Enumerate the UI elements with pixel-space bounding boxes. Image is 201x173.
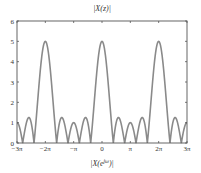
- x-tick-label: −2π: [40, 145, 51, 153]
- y-tick-label: 4: [11, 58, 15, 66]
- y-tick-label: 3: [11, 79, 15, 87]
- chart-title: |X(z)|: [93, 4, 111, 13]
- y-tick-label: 0: [11, 140, 15, 148]
- x-tick-label: −π: [70, 145, 78, 153]
- y-tick-label: 5: [11, 38, 15, 46]
- x-tick-label: π: [129, 145, 133, 153]
- y-tick-label: 2: [11, 99, 15, 107]
- plot-frame: [17, 21, 187, 143]
- y-axis: 0123456: [11, 18, 188, 148]
- x-axis-label: |X(ejω)|: [90, 158, 114, 168]
- y-tick-label: 1: [11, 119, 15, 127]
- magnitude-line: [17, 41, 187, 143]
- magnitude-curve: [17, 41, 187, 143]
- x-tick-label: 2π: [155, 145, 163, 153]
- x-tick-label: 0: [100, 145, 104, 153]
- chart: |X(z)| −3π−2π−π0π2π3π 0123456 |X(ejω)|: [0, 0, 201, 173]
- y-tick-label: 6: [11, 18, 15, 26]
- x-tick-label: 3π: [183, 145, 191, 153]
